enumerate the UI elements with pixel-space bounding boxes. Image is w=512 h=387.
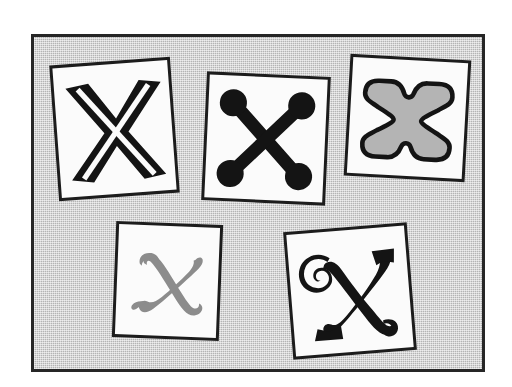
poster-canvas — [0, 0, 512, 387]
card-ball-terminal-x[interactable] — [201, 71, 331, 205]
card-gray-script-x[interactable] — [112, 221, 223, 341]
card-bold-inline-x[interactable] — [49, 57, 180, 201]
card-ornate-x[interactable] — [283, 222, 417, 360]
glyph-ornate-x — [286, 225, 413, 356]
glyph-outline-x — [347, 57, 468, 179]
poster-frame — [31, 34, 485, 372]
glyph-bold-inline-x — [52, 60, 176, 198]
card-outline-x[interactable] — [344, 54, 472, 183]
glyph-ball-terminal-x — [204, 74, 327, 202]
glyph-gray-script-x — [115, 224, 220, 338]
